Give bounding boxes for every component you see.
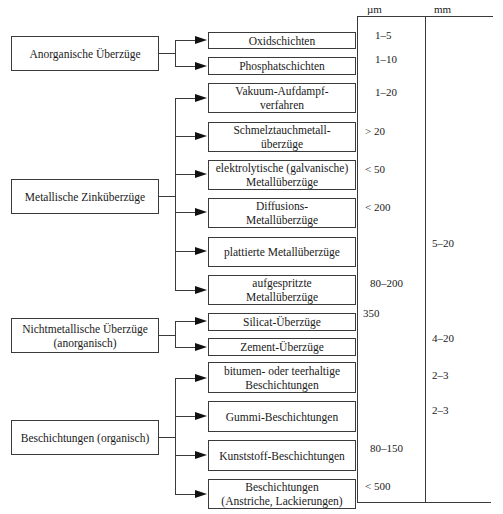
arrow-right-icon	[195, 36, 207, 44]
item-phosphatschichten: Phosphatschichten	[208, 57, 356, 75]
value-um-diffusion: < 200	[365, 201, 390, 213]
connector-branch	[175, 290, 197, 291]
item-plattierte-metallueberzuege: plattierte Metallüberzüge	[208, 237, 356, 267]
connector-branch	[175, 66, 197, 67]
item-zement-ueberzuege: Zement-Überzüge	[208, 338, 356, 356]
value-um-vakuum: 1–20	[375, 86, 397, 98]
connector-vertical	[175, 40, 176, 66]
item-silicat-ueberzuege: Silicat-Überzüge	[208, 313, 356, 331]
value-mm-zement: 4–20	[432, 332, 454, 344]
arrow-right-icon	[195, 490, 207, 498]
connector-vertical	[175, 378, 176, 494]
arrow-right-icon	[195, 62, 207, 70]
category-nichtmetallische-ueberzuege: Nichtmetallische Überzüge (anorganisch)	[11, 318, 159, 353]
table-left-rule	[357, 16, 358, 503]
arrow-right-icon	[195, 94, 207, 102]
connector-branch	[175, 455, 197, 456]
connector-branch	[175, 40, 197, 41]
item-vakuum-aufdampfverfahren: Vakuum-Aufdampf- verfahren	[208, 83, 356, 113]
connector-branch	[175, 98, 197, 99]
header-unit-mm: mm	[434, 3, 451, 15]
connector-vertical	[175, 98, 176, 290]
item-diffusions-metallueberzuege: Diffusions- Metallüberzüge	[208, 198, 356, 228]
item-schmelztauchmetallueberzuege: Schmelztauchmetall- überzüge	[208, 122, 356, 152]
connector-branch	[175, 347, 197, 348]
value-mm-bitumen: 2–3	[432, 369, 449, 381]
arrow-right-icon	[195, 451, 207, 459]
category-anorganische-ueberzuege: Anorganische Überzüge	[11, 36, 159, 71]
value-um-silicat: 350	[363, 307, 380, 319]
connector-branch	[175, 174, 197, 175]
connector-branch	[175, 321, 197, 322]
connector-stub	[158, 437, 175, 438]
value-um-oxidschichten: 1–5	[375, 29, 392, 41]
value-mm-gummi: 2–3	[432, 404, 449, 416]
arrow-right-icon	[195, 132, 207, 140]
item-gummi-beschichtungen: Gummi-Beschichtungen	[208, 401, 356, 432]
connector-branch	[175, 251, 197, 252]
connector-branch	[175, 416, 197, 417]
value-mm-plattiert: 5–20	[432, 237, 454, 249]
item-kunststoff-beschichtungen: Kunststoff-Beschichtungen	[208, 440, 356, 471]
connector-stub	[158, 53, 175, 54]
value-um-schmelztauch: > 20	[365, 125, 385, 137]
category-beschichtungen-organisch: Beschichtungen (organisch)	[11, 420, 159, 455]
item-oxidschichten: Oxidschichten	[208, 32, 356, 49]
connector-branch	[175, 136, 197, 137]
value-um-phosphatschichten: 1–10	[375, 53, 397, 65]
arrow-right-icon	[195, 247, 207, 255]
value-um-kunststoff: 80–150	[370, 442, 403, 454]
arrow-right-icon	[195, 412, 207, 420]
item-elektrolytische-metallueberzuege: elektrolytische (galvanische) Metallüber…	[208, 160, 356, 190]
category-metallische-zinkueberzuege: Metallische Zinküberzüge	[11, 179, 159, 214]
connector-branch	[175, 212, 197, 213]
connector-branch	[175, 494, 197, 495]
header-unit-um: µm	[367, 3, 382, 15]
value-um-anstriche: < 500	[365, 480, 390, 492]
item-anstriche-lackierungen: Beschichtungen (Anstriche, Lackierungen)	[208, 479, 356, 509]
arrow-right-icon	[195, 208, 207, 216]
arrow-right-icon	[195, 286, 207, 294]
connector-stub	[158, 335, 175, 336]
value-um-elektrolytisch: < 50	[365, 163, 385, 175]
connector-vertical	[175, 321, 176, 347]
arrow-right-icon	[195, 170, 207, 178]
arrow-right-icon	[195, 317, 207, 325]
connector-branch	[175, 378, 197, 379]
value-um-aufgespritzt: 80–200	[370, 277, 403, 289]
item-bitumen-teerhaltige-beschichtungen: bitumen- oder teerhaltige Beschichtungen	[208, 362, 356, 393]
arrow-right-icon	[195, 343, 207, 351]
connector-stub	[158, 196, 175, 197]
item-aufgespritzte-metallueberzuege: aufgespritzte Metallüberzüge	[208, 275, 356, 305]
table-middle-rule	[425, 16, 426, 503]
table-bottom-rule	[357, 502, 491, 503]
arrow-right-icon	[195, 374, 207, 382]
